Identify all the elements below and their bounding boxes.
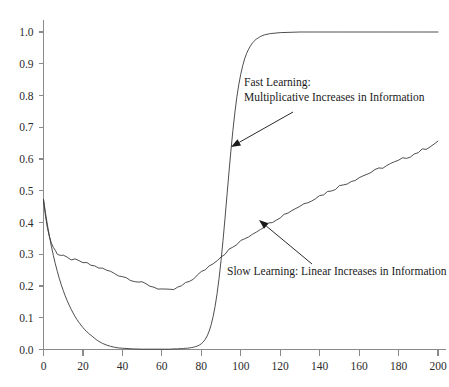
fast-learning-curve <box>44 32 439 349</box>
x-tick-label: 140 <box>311 360 329 372</box>
y-tick-label: 0.0 <box>19 344 34 356</box>
y-tick-label: 0.4 <box>19 217 34 229</box>
y-tick-label: 0.5 <box>19 185 34 197</box>
y-axis: 0.00.10.20.30.40.50.60.70.80.91.0 <box>19 20 43 356</box>
annotation-label-slow-learning: Slow Learning: Linear Increases in Infor… <box>227 265 447 278</box>
x-tick-label: 160 <box>350 360 368 372</box>
line-chart: 0.00.10.20.30.40.50.60.70.80.91.0 020406… <box>0 0 449 387</box>
x-tick-label: 40 <box>117 360 129 372</box>
annotation-arrow-fast-learning <box>239 112 293 142</box>
y-tick-label: 0.6 <box>19 153 34 165</box>
y-tick-label: 0.8 <box>19 90 34 102</box>
annotation-arrow-slow-learning <box>266 226 312 264</box>
annotation-arrowhead-slow-learning <box>259 220 269 229</box>
x-tick-label: 180 <box>390 360 408 372</box>
x-tick-label: 100 <box>232 360 250 372</box>
x-axis: 020406080100120140160180200 <box>41 350 447 372</box>
y-tick-label: 0.2 <box>19 280 34 292</box>
x-tick-label: 20 <box>77 360 89 372</box>
annotation-label-fast-learning: Fast Learning:Multiplicative Increases i… <box>244 76 425 104</box>
x-tick-label: 0 <box>41 360 47 372</box>
annotation-group: Fast Learning:Multiplicative Increases i… <box>227 76 447 278</box>
x-tick-label: 120 <box>272 360 290 372</box>
y-tick-label: 0.9 <box>19 58 34 70</box>
chart-figure: 0.00.10.20.30.40.50.60.70.80.91.0 020406… <box>0 0 449 387</box>
y-tick-label: 0.1 <box>19 312 34 324</box>
annotation-arrowhead-fast-learning <box>231 139 241 147</box>
x-tick-label: 200 <box>429 360 447 372</box>
y-tick-label: 0.3 <box>19 248 34 260</box>
x-tick-label: 80 <box>196 360 208 372</box>
curve-series-group <box>44 32 439 349</box>
x-tick-label: 60 <box>156 360 168 372</box>
y-tick-label: 0.7 <box>19 121 34 133</box>
y-tick-label: 1.0 <box>19 26 34 38</box>
